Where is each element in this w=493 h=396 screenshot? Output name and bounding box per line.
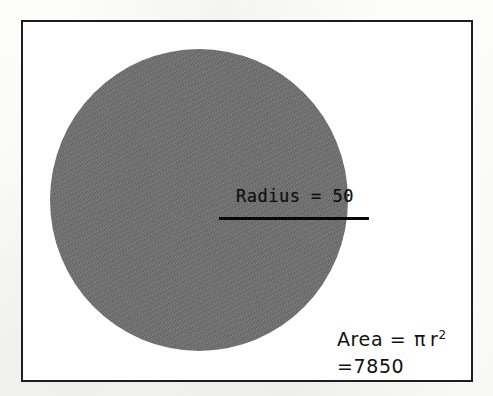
area-annotation-group: Area = πr2 =7850 bbox=[337, 322, 446, 380]
radius-variable: r bbox=[427, 328, 438, 350]
pi-symbol: π bbox=[413, 328, 427, 350]
area-formula-line: Area = πr2 bbox=[337, 322, 446, 353]
radius-line bbox=[219, 217, 369, 220]
area-value: =7850 bbox=[337, 353, 446, 380]
figure-frame: Radius = 50 Area = πr2 =7850 bbox=[21, 20, 473, 382]
area-formula-prefix: Area = bbox=[337, 328, 413, 350]
radius-label: Radius = 50 bbox=[219, 186, 371, 207]
exponent-two: 2 bbox=[438, 328, 446, 342]
radius-annotation-group: Radius = 50 bbox=[219, 186, 371, 220]
